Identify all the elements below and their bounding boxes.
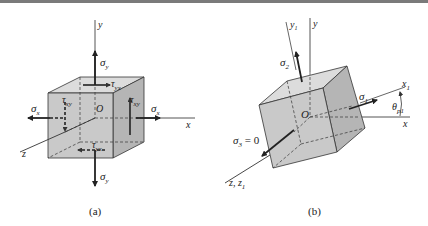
sigma-2-arrow	[296, 52, 302, 82]
y1-axis-b-label: y1	[289, 19, 297, 31]
sigma-x-right-label: σx	[151, 102, 160, 117]
stress-element-figure: y x z O σy σy σx σx τyx τyx τxy τxy (a)	[0, 0, 428, 226]
cube-a-front-face	[48, 93, 113, 158]
panel-a: y x z O σy σy σx σx τyx τyx τxy τxy (a)	[20, 19, 195, 218]
x1-axis-b-label: x1	[401, 78, 410, 92]
origin-b-label: O	[301, 108, 309, 120]
sigma-2-label: σ2	[280, 56, 289, 71]
x-axis-a-label: x	[185, 119, 191, 130]
z-axis-a-label: z	[21, 148, 26, 159]
y-axis-a-label: y	[97, 19, 103, 30]
theta-p1-label: θp1	[392, 101, 404, 115]
caption-a: (a)	[89, 205, 102, 218]
caption-b: (b)	[308, 205, 321, 218]
sigma-3-label: σ3 = 0	[233, 134, 260, 149]
x-axis-b-label: x	[402, 118, 408, 129]
sigma-x-left-label: σx	[31, 102, 40, 117]
sigma-y-top-label: σy	[100, 56, 109, 71]
origin-a-label: O	[96, 103, 103, 114]
panel-b: y y1 x x1 z, z1 O σ1 σ2 σ3 = 0 θp1 (b)	[225, 18, 410, 218]
sigma-y-bottom-label: σy	[100, 170, 109, 185]
z-axis-b-label: z, z1	[228, 177, 245, 191]
y-axis-b-label: y	[312, 18, 318, 29]
